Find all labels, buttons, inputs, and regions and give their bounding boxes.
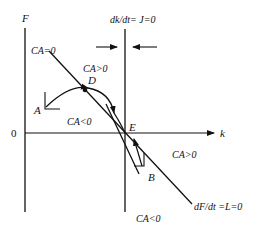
y-axis-label: F: [21, 12, 29, 24]
trajectory-b: [134, 139, 142, 166]
origin-label: 0: [11, 127, 17, 139]
trajectory-curve-d: [88, 88, 114, 113]
point-b-label: B: [148, 171, 155, 183]
region-upper-left-label: CA<0: [67, 116, 92, 127]
df-dt-label: dF/dt =L=0: [194, 201, 242, 212]
point-d-label: D: [87, 74, 96, 86]
point-a-label: A: [33, 104, 41, 116]
df-dt-zero-locus: [49, 51, 192, 204]
point-e-label: E: [128, 121, 136, 133]
trajectory-curve-a: [46, 87, 88, 107]
phase-diagram: F 0 k dk/dt= J=0 CA=0 dF/dt =L=0 CA>0 CA…: [0, 0, 257, 232]
point-d-dot: [83, 88, 88, 93]
region-upper-right-label: CA>0: [83, 63, 108, 74]
ca-zero-label: CA=0: [31, 45, 56, 56]
region-lower-right-label: CA>0: [172, 149, 197, 160]
x-axis-label: k: [220, 127, 226, 139]
region-lower-center-label: CA<0: [136, 213, 161, 224]
dk-dt-label: dk/dt= J=0: [110, 14, 155, 25]
